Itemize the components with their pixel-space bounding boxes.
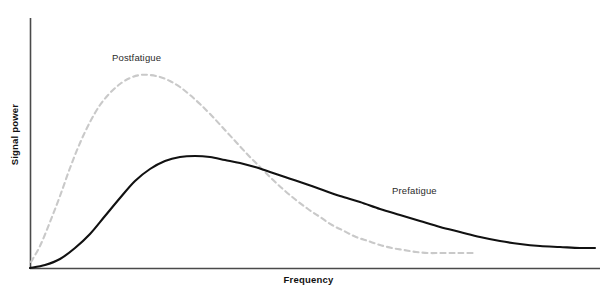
series-label-postfatigue: Postfatigue xyxy=(112,52,161,63)
series-line-prefatigue xyxy=(30,156,595,268)
y-axis-title: Signal power xyxy=(9,80,20,190)
series-line-postfatigue xyxy=(31,75,473,262)
chart-figure: Postfatigue Prefatigue Frequency Signal … xyxy=(0,0,611,301)
series-label-prefatigue: Prefatigue xyxy=(392,185,437,196)
x-axis-title: Frequency xyxy=(0,274,611,285)
chart-plot-area xyxy=(0,0,611,301)
